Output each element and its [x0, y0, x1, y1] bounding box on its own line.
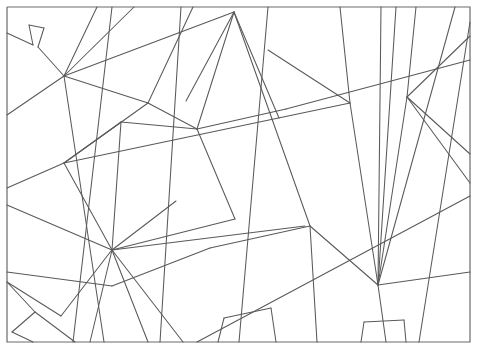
line-art-canvas — [0, 0, 477, 351]
line-art-figure — [0, 0, 477, 351]
figure-background — [0, 0, 477, 351]
